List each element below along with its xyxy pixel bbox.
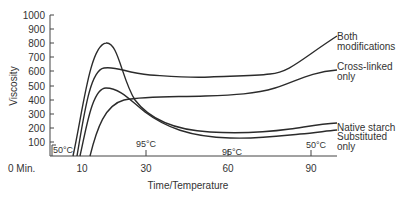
svg-text:700: 700 <box>28 52 45 63</box>
svg-text:900: 900 <box>28 24 45 35</box>
svg-text:50°C: 50°C <box>306 140 327 150</box>
viscosity-chart: 1000 900 800 700 600 500 400 300 200 100… <box>0 0 406 197</box>
curve-substituted-only <box>80 88 337 156</box>
legend-both-modifications: Both modifications <box>337 31 395 52</box>
svg-text:30: 30 <box>140 163 152 174</box>
svg-text:800: 800 <box>28 38 45 49</box>
svg-text:200: 200 <box>28 123 45 134</box>
svg-text:only: only <box>337 71 355 82</box>
svg-text:600: 600 <box>28 66 45 77</box>
svg-text:10: 10 <box>76 163 88 174</box>
x-tick-labels: 0 Min. 10 30 60 90 <box>8 163 317 174</box>
y-ticks <box>50 15 54 142</box>
svg-text:modifications: modifications <box>337 41 395 52</box>
svg-text:1000: 1000 <box>23 10 46 21</box>
curve-native-starch <box>73 43 337 156</box>
y-tick-labels: 1000 900 800 700 600 500 400 300 200 100 <box>23 10 46 148</box>
y-axis-title: Viscosity <box>8 66 19 105</box>
legend-cross-linked-only: Cross-linked only <box>337 61 393 82</box>
svg-text:95°C: 95°C <box>136 139 157 149</box>
svg-text:300: 300 <box>28 109 45 120</box>
svg-text:only: only <box>337 141 355 152</box>
svg-text:95°C: 95°C <box>222 147 243 157</box>
svg-text:500: 500 <box>28 81 45 92</box>
svg-text:0 Min.: 0 Min. <box>8 163 35 174</box>
svg-text:50°C: 50°C <box>53 145 74 155</box>
svg-text:400: 400 <box>28 95 45 106</box>
svg-text:60: 60 <box>222 163 234 174</box>
svg-text:90: 90 <box>305 163 317 174</box>
legend-substituted-only: Substituted only <box>337 131 387 152</box>
svg-text:100: 100 <box>28 137 45 148</box>
x-axis-title: Time/Temperature <box>148 180 229 191</box>
